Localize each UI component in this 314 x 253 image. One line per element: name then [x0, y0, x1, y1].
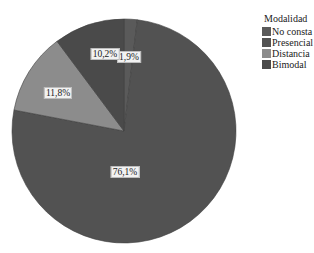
slice-label-presencial: 76,1%	[111, 166, 140, 178]
legend-label: No consta	[272, 26, 312, 37]
legend-swatch	[262, 27, 271, 36]
slice-label-distancia: 11,8%	[44, 87, 72, 99]
slice-label-bimodal: 10,2%	[91, 48, 120, 60]
slice-label-no-consta: 1,9%	[117, 51, 141, 63]
legend: Modalidad No consta Presencial Distancia…	[262, 13, 313, 70]
legend-swatch	[262, 38, 271, 47]
legend-swatch	[262, 49, 271, 58]
legend-swatch	[262, 60, 271, 69]
legend-label: Bimodal	[272, 59, 306, 70]
legend-item-bimodal: Bimodal	[262, 59, 313, 70]
legend-title: Modalidad	[262, 13, 313, 24]
legend-label: Distancia	[272, 48, 310, 59]
legend-item-distancia: Distancia	[262, 48, 313, 59]
legend-item-presencial: Presencial	[262, 37, 313, 48]
legend-item-no-consta: No consta	[262, 26, 313, 37]
legend-label: Presencial	[272, 37, 313, 48]
